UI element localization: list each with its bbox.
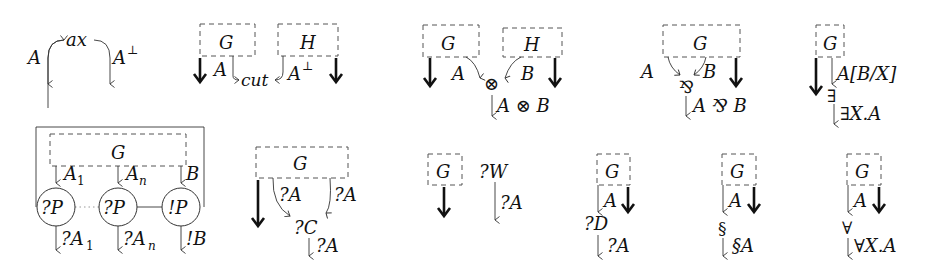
- tensor-conclusion: A ⊗ B: [495, 95, 550, 116]
- cut-label: cut: [241, 70, 268, 90]
- box-G-label: G: [436, 161, 450, 182]
- forall-conclusion: ∀X.A: [854, 235, 896, 256]
- box-G-label: G: [823, 33, 837, 54]
- perp-symbol: ⊥: [127, 43, 138, 57]
- formula-A: A: [852, 190, 867, 211]
- exists-link: G A[B/X] ∃ ∃X.A: [810, 25, 897, 124]
- cut-link: G H A cut A ⊥: [194, 24, 342, 90]
- forall-link: G A ∀ ∀X.A: [842, 154, 896, 256]
- formula-qA1: ?A: [61, 228, 84, 249]
- subscript-n: n: [148, 239, 156, 253]
- tensor-node: ⊗: [484, 73, 499, 94]
- perp-symbol: ⊥: [302, 59, 313, 73]
- contraction-link: G ?A ?A ?C ?A: [252, 147, 357, 256]
- par-link: G A B ⅋ A ⅋ B: [639, 25, 747, 116]
- formula-B: B: [702, 61, 716, 82]
- axiom-label: ax: [66, 29, 87, 50]
- formula-A: A: [602, 190, 617, 211]
- contraction-node: ?C: [294, 217, 318, 238]
- contraction-conclusion: ?A: [316, 235, 339, 256]
- exists-conclusion: ∃X.A: [840, 103, 881, 124]
- formula-subst: A[B/X]: [835, 63, 897, 84]
- axiom-link: ax A A ⊥: [26, 29, 138, 108]
- paragraph-link: G A § §A: [718, 154, 760, 256]
- formula-A: A: [450, 63, 465, 84]
- box-H-label: H: [523, 34, 540, 55]
- formula-A: A: [727, 190, 742, 211]
- formula-An: A: [124, 163, 139, 184]
- box-G-label: G: [111, 142, 125, 163]
- tensor-link: G H A B ⊗ A ⊗ B: [423, 25, 562, 116]
- subscript-1: 1: [86, 239, 94, 253]
- forall-node: ∀: [842, 218, 853, 238]
- box-G-label: G: [693, 33, 707, 54]
- box-G-label: G: [730, 161, 744, 182]
- formula-A-perp: A: [286, 63, 301, 84]
- qP-label: ?P: [103, 197, 126, 218]
- box-G-label: G: [219, 32, 233, 53]
- weakening-link: G ?W ?A: [428, 154, 523, 220]
- box-G-label: G: [293, 153, 307, 174]
- formula-qA: ?A: [279, 184, 302, 205]
- bP-label: !P: [168, 197, 188, 218]
- paragraph-node: §: [718, 218, 727, 238]
- subscript-n: n: [139, 174, 147, 188]
- formula-qAn: ?A: [123, 228, 146, 249]
- dereliction-node: ?D: [584, 213, 609, 234]
- box-G-label: G: [605, 161, 619, 182]
- formula-B: B: [185, 163, 199, 184]
- formula-A1: A: [62, 163, 77, 184]
- weakening-conclusion: ?A: [500, 192, 523, 213]
- box-G-label: G: [855, 161, 869, 182]
- par-node: ⅋: [679, 77, 694, 97]
- exists-node: ∃: [827, 86, 836, 106]
- proof-net-rules-diagram: ax A A ⊥ G H A cut A ⊥ G H A B ⊗ A: [0, 0, 948, 274]
- weakening-node: ?W: [479, 161, 509, 182]
- dereliction-link: G A ?D ?A: [584, 154, 634, 256]
- box-G-label: G: [441, 33, 455, 54]
- dereliction-conclusion: ?A: [607, 235, 630, 256]
- formula-B: B: [520, 63, 534, 84]
- formula-A: A: [212, 59, 227, 80]
- formula-bB: !B: [186, 228, 206, 249]
- subscript-1: 1: [77, 174, 85, 188]
- par-conclusion: A ⅋ B: [691, 95, 747, 116]
- promotion-box: G A 1 A n B ?P ?P !P ?A 1 ?A n !B: [36, 127, 206, 253]
- formula-A: A: [639, 61, 654, 82]
- formula-qA: ?A: [334, 184, 357, 205]
- formula-A-perp: A: [111, 47, 126, 68]
- box-H-label: H: [299, 32, 316, 53]
- paragraph-conclusion: §A: [732, 235, 754, 256]
- formula-A: A: [26, 47, 41, 68]
- qP-label: ?P: [41, 197, 64, 218]
